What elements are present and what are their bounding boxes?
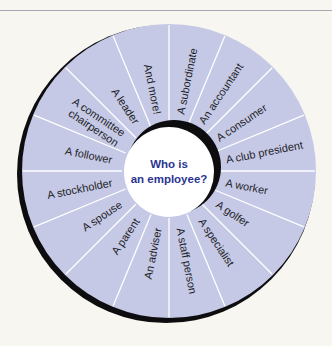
page: A subordinateAn accountantA consumerA cl… bbox=[0, 0, 332, 346]
center-title-line-1: Who is bbox=[150, 158, 188, 170]
employee-wheel-diagram: A subordinateAn accountantA consumerA cl… bbox=[0, 0, 332, 346]
center-title-line-2: an employee? bbox=[131, 173, 208, 185]
center-hub bbox=[124, 127, 214, 217]
